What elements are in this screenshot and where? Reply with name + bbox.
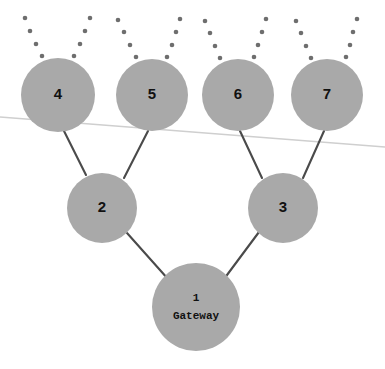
edge-4-to-2 — [64, 131, 86, 175]
edge-3-to-1 — [224, 232, 259, 279]
node-7[interactable]: 7 — [291, 59, 363, 131]
node-sublabel-1: Gateway — [173, 310, 220, 322]
uplink-dot-node5-right-1 — [174, 30, 179, 35]
uplink-dot-node6-left-0 — [203, 19, 208, 24]
uplink-dot-node7-right-3 — [344, 55, 349, 60]
uplink-dot-node5-left-1 — [122, 30, 127, 35]
uplink-dot-node5-right-2 — [170, 43, 175, 48]
uplink-dot-node7-left-0 — [294, 19, 299, 24]
uplink-dot-node7-left-2 — [304, 44, 309, 49]
uplink-dot-node4-right-1 — [83, 29, 88, 34]
node-4[interactable]: 4 — [21, 58, 95, 132]
uplink-dot-node5-left-3 — [134, 55, 139, 60]
node-label-5: 5 — [148, 85, 156, 102]
uplink-dot-node4-left-0 — [23, 16, 28, 21]
uplink-dot-node5-left-2 — [128, 43, 133, 48]
uplink-dot-node6-right-3 — [252, 55, 257, 60]
uplink-dot-node5-left-0 — [116, 18, 121, 23]
topology-canvas: 1Gateway234567 — [0, 0, 385, 369]
uplink-dot-node7-left-1 — [299, 31, 304, 36]
uplink-dot-node5-right-0 — [178, 17, 183, 22]
node-layer: 1Gateway234567 — [21, 58, 363, 351]
uplink-dot-node4-left-2 — [34, 42, 39, 47]
uplink-dot-node7-left-3 — [309, 56, 314, 61]
node-label-3: 3 — [279, 198, 287, 215]
uplink-dot-node6-right-0 — [264, 17, 269, 22]
node-label-6: 6 — [234, 85, 242, 102]
edge-5-to-2 — [124, 131, 148, 178]
uplink-dot-node7-right-0 — [355, 17, 360, 22]
edge-2-to-1 — [127, 233, 168, 279]
node-2[interactable]: 2 — [67, 173, 137, 243]
uplink-dot-node4-left-1 — [28, 29, 33, 34]
uplink-dot-node7-right-2 — [348, 43, 353, 48]
node-6[interactable]: 6 — [202, 59, 274, 131]
node-5[interactable]: 5 — [116, 59, 188, 131]
uplink-dot-node4-right-3 — [72, 54, 77, 59]
uplink-dot-node7-right-1 — [351, 30, 356, 35]
network-topology-diagram: 1Gateway234567 — [0, 0, 385, 369]
uplink-dot-node6-left-3 — [218, 56, 223, 61]
node-label-7: 7 — [323, 85, 331, 102]
uplink-dot-node6-left-2 — [213, 44, 218, 49]
node-1[interactable]: 1Gateway — [152, 263, 240, 351]
uplink-dot-node5-right-3 — [165, 55, 170, 60]
node-label-2: 2 — [98, 198, 106, 215]
node-label-1: 1 — [193, 292, 200, 304]
uplink-dot-node6-right-1 — [260, 30, 265, 35]
uplink-dot-node4-right-2 — [78, 42, 83, 47]
edge-6-to-3 — [240, 131, 262, 178]
edge-7-to-3 — [303, 131, 324, 178]
uplink-dot-node6-left-1 — [208, 31, 213, 36]
node-circle-1[interactable] — [152, 263, 240, 351]
uplink-dot-node4-left-3 — [40, 54, 45, 59]
node-3[interactable]: 3 — [248, 173, 318, 243]
uplink-dot-node4-right-0 — [88, 16, 93, 21]
uplink-dots-layer — [23, 16, 360, 61]
uplink-dot-node6-right-2 — [256, 43, 261, 48]
node-label-4: 4 — [54, 85, 63, 102]
